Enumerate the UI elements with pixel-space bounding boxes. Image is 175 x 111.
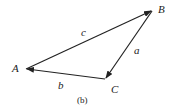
figure-caption: (b)	[77, 96, 88, 105]
vertex-label-b: B	[158, 4, 165, 15]
vertex-label-c: C	[111, 84, 118, 95]
vector-triangle-figure: A B C c a b (b)	[0, 0, 175, 111]
edge-label-a: a	[134, 45, 140, 56]
triangle-diagram	[0, 0, 175, 111]
vector-b	[27, 69, 105, 79]
edge-label-b: b	[58, 80, 64, 91]
edge-label-c: c	[81, 27, 86, 38]
vertex-label-a: A	[12, 63, 19, 74]
